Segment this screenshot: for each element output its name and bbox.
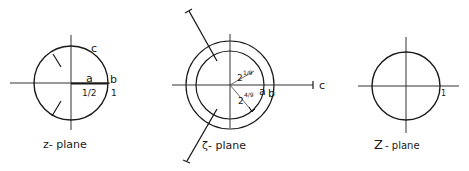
z-plane-label-half: 1/2 [82,88,96,98]
z-plane-label-one: 1 [111,88,117,98]
Z-plane-diagram: 1 Z - plane [358,37,459,152]
zeta-plane-arrow-icon [249,107,255,112]
zeta-plane-outer-radius-exp: 4/9 [244,91,254,98]
zeta-plane-lower-ray-cap [183,160,190,163]
zeta-plane-label-a: a [259,85,266,98]
conformal-map-figure: c a b 1/2 1 z- plane 2 1/9 2 4/9 a b c ζ… [0,0,469,171]
zeta-plane-inner-radius-exp: 1/9 [243,69,253,76]
zeta-plane-upper-ray [189,11,217,61]
zeta-plane-lower-ray [187,109,217,161]
z-plane-lower-tick [52,101,61,116]
zeta-plane-label-b: b [268,87,275,100]
z-plane-label-b: b [110,73,117,86]
Z-plane-label-one: 1 [441,89,446,98]
z-plane-label-a: a [86,72,93,85]
zeta-plane-outer-radius-base: 2 [238,96,244,106]
zeta-plane-inner-radius-base: 2 [237,73,243,83]
z-plane-caption: z- plane [43,138,87,151]
zeta-plane-caption: ζ- plane [202,139,246,152]
Z-plane-caption-rest: - plane [385,140,420,151]
z-plane-diagram: c a b 1/2 1 z- plane [10,35,117,151]
z-plane-upper-tick [53,54,61,67]
zeta-plane-upper-ray-cap [185,9,192,13]
zeta-plane-diagram: 2 1/9 2 4/9 a b c ζ- plane [172,9,325,163]
Z-plane-caption-main: Z [374,137,383,152]
z-plane-label-c: c [91,42,97,55]
zeta-plane-label-c: c [319,79,325,92]
